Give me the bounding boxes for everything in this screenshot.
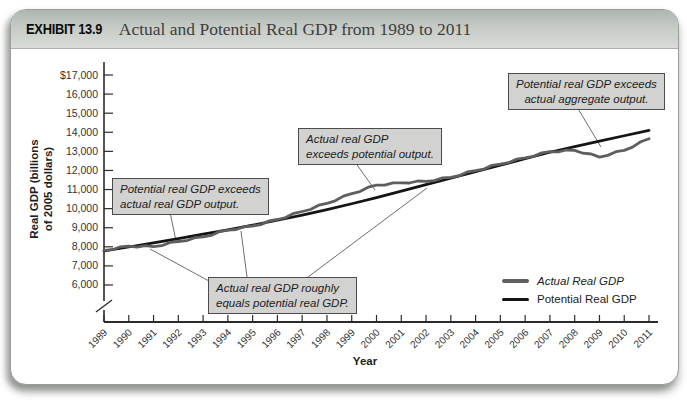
y-tick-label: $17,000 [60, 69, 98, 81]
legend-label-actual: Actual Real GDP [537, 275, 624, 287]
x-tick-label: 1993 [185, 326, 209, 350]
x-tick-label: 1999 [334, 326, 358, 350]
x-tick-label: 1996 [259, 326, 283, 350]
potential-line-swatch [502, 298, 529, 301]
x-tick-label: 2008 [557, 326, 581, 350]
x-tick-label: 2000 [358, 326, 382, 350]
x-tick-label: 2006 [507, 326, 531, 350]
annotation-line: Potential real GDP exceeds [516, 77, 657, 92]
x-tick-label: 2002 [408, 326, 432, 350]
annotation-leader-line [150, 249, 209, 281]
y-axis-title-line2: of 2005 dollars) [42, 119, 56, 259]
annotation-potential-exceeds-actual: Potential real GDP exceeds actual real G… [112, 178, 269, 215]
annotation-leader-line [308, 188, 427, 277]
x-tick-label: 1990 [111, 326, 135, 350]
x-tick-label: 2004 [457, 326, 481, 350]
y-axis-title: Real GDP (billions of 2005 dollars) [28, 119, 56, 259]
annotation-line: Actual real GDP roughly [216, 281, 349, 296]
annotation-line: actual aggregate output. [516, 92, 657, 107]
y-tick-label: 11,000 [67, 183, 98, 195]
x-tick-label: 2009 [581, 326, 605, 350]
legend-label-potential: Potential Real GDP [537, 293, 637, 305]
gdp-chart: $17,00016,00015,00014,00013,00012,00011,… [0, 0, 687, 400]
y-tick-label: 10,000 [66, 202, 98, 214]
x-tick-label: 1994 [210, 326, 234, 350]
y-tick-label: 12,000 [66, 164, 98, 176]
x-tick-label: 1989 [86, 326, 110, 350]
x-tick-label: 1992 [160, 326, 184, 350]
y-tick-label: 16,000 [66, 88, 98, 100]
x-tick-label: 1991 [135, 326, 159, 350]
legend-item-actual: Actual Real GDP [502, 272, 637, 290]
y-tick-label: 8,000 [72, 240, 98, 252]
x-tick-label: 2010 [606, 326, 630, 350]
y-tick-label: 6,000 [72, 278, 98, 290]
y-axis-title-line1: Real GDP (billions [28, 119, 42, 259]
x-tick-label: 2001 [383, 326, 407, 350]
annotation-line: actual real GDP output. [120, 197, 261, 212]
actual-line-swatch [502, 279, 529, 283]
y-tick-label: 15,000 [66, 107, 98, 119]
annotation-roughly-equal: Actual real GDP roughly equals potential… [208, 277, 357, 314]
y-tick-label: 7,000 [72, 259, 98, 271]
annotation-line: Potential real GDP exceeds [120, 182, 261, 197]
annotation-actual-exceeds-potential: Actual real GDP exceeds potential output… [298, 128, 442, 165]
annotation-line: exceeds potential output. [306, 147, 434, 162]
y-tick-label: 14,000 [66, 126, 98, 138]
x-tick-label: 2007 [532, 326, 556, 350]
x-tick-label: 2003 [433, 326, 457, 350]
y-tick-label: 9,000 [72, 221, 98, 233]
annotation-potential-exceeds-aggregate: Potential real GDP exceeds actual aggreg… [508, 73, 665, 110]
x-axis-title: Year [330, 355, 400, 367]
annotation-line: Actual real GDP [306, 132, 434, 147]
x-tick-label: 2011 [631, 326, 654, 349]
exhibit-figure: EXHIBIT 13.9 Actual and Potential Real G… [0, 0, 687, 400]
legend-item-potential: Potential Real GDP [502, 290, 637, 308]
x-tick-label: 1998 [309, 326, 333, 350]
annotation-line: equals potential real GDP. [216, 296, 349, 311]
chart-legend: Actual Real GDP Potential Real GDP [502, 272, 637, 308]
annotation-leader-line [241, 231, 247, 277]
annotation-leader-line [170, 212, 176, 241]
x-tick-label: 1995 [235, 326, 259, 350]
x-tick-label: 2005 [482, 326, 506, 350]
x-tick-label: 1997 [284, 326, 308, 350]
y-tick-label: 13,000 [66, 145, 98, 157]
